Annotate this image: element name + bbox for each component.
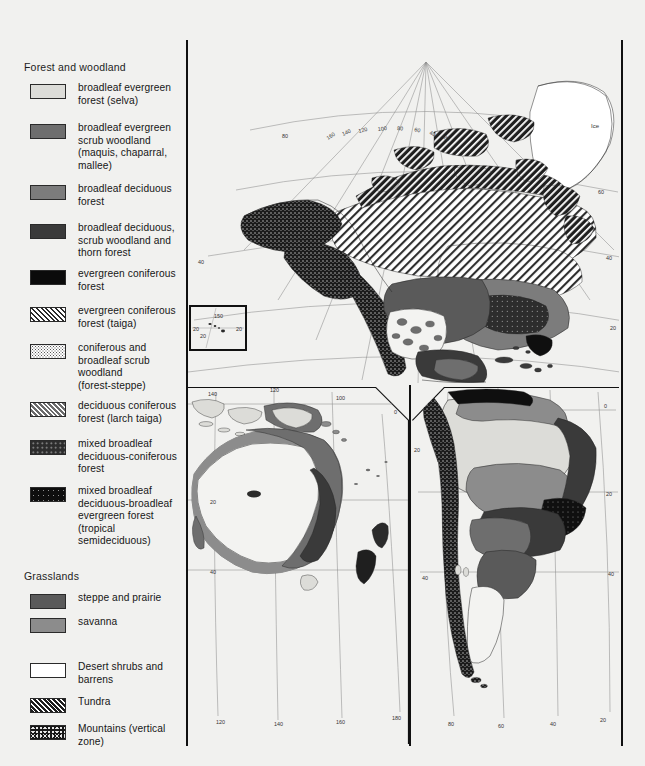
legend-swatch-broadleaf-evergreen-scrub-woodland	[30, 124, 66, 139]
graticule-label-lon: 60	[498, 723, 504, 729]
legend-group-title-forest: Forest and woodland	[24, 61, 126, 73]
graticule-label-lat: 20	[200, 333, 206, 339]
panel-south-america: 0 20 40 40 80 60 40 20	[412, 387, 620, 729]
graticule-label-lon: 160	[325, 131, 336, 141]
graticule-label-lon: 100	[377, 125, 387, 132]
graticule-label-lat: 20	[610, 325, 616, 331]
graticule-label-lon: 140	[274, 721, 283, 727]
graticule-label-lon: 20	[414, 447, 420, 453]
graticule-label-lon: 60	[414, 126, 421, 133]
graticule-label-lon: 120	[216, 719, 225, 725]
graticule-label-lat: 60	[598, 189, 604, 195]
graticule-label-lon: 140	[208, 391, 217, 397]
graticule-label-lat: 40	[210, 569, 216, 575]
graticule-label-lon: 180	[392, 715, 401, 721]
annotation-ice: Ice	[591, 123, 600, 129]
legend-swatch-mixed-broadleaf-deciduous-evergreen	[30, 487, 66, 502]
legend-group-title-grasslands: Grasslands	[24, 570, 79, 582]
legend-swatch-savanna	[30, 618, 66, 633]
graticule-label-lon: 160	[336, 719, 345, 725]
graticule-label-lon: 100	[336, 395, 345, 401]
panel-australia: 140 120 100 20 40 120 140 160 180	[188, 387, 409, 744]
graticule-label-lat: 20	[210, 499, 216, 505]
graticule-label-lon: 140	[341, 128, 352, 137]
inset-label: 150	[214, 313, 223, 319]
graticule-label-lon: 80	[448, 721, 454, 727]
legend-swatch-coniferous-broadleaf-forest-steppe	[30, 344, 66, 359]
graticule-label-lat: 40	[608, 571, 614, 577]
graticule-label-lon: 120	[270, 387, 279, 393]
inset-hawaii: 150 20 20	[190, 306, 246, 350]
legend-swatch-mixed-broadleaf-deciduous-coniferous	[30, 440, 66, 455]
legend-swatch-mountains-vertical-zone	[30, 725, 66, 740]
graticule-label-lat: 40	[422, 575, 428, 581]
legend-swatch-tundra	[30, 698, 66, 713]
panel-north-america: Ice 160 140 120 100 80 60 40 20 80 40 20…	[188, 62, 634, 384]
map-legend: Forest and woodland broadleaf evergreen …	[0, 0, 186, 766]
legend-swatch-broadleaf-evergreen-forest	[30, 84, 66, 99]
legend-swatch-evergreen-coniferous-forest	[30, 270, 66, 285]
legend-swatch-steppe-and-prairie	[30, 594, 66, 609]
map-canvas: Ice 160 140 120 100 80 60 40 20 80 40 20…	[186, 0, 645, 766]
graticule-label-lat: 40	[198, 259, 204, 265]
graticule-label-lat: 80	[282, 133, 288, 139]
graticule-label-lon: 120	[358, 126, 368, 134]
graticule-label-lat: 0	[604, 403, 607, 409]
inset-label: 20	[193, 326, 199, 332]
graticule-label-lon: 80	[397, 125, 403, 131]
legend-swatch-evergreen-coniferous-taiga	[30, 307, 66, 322]
legend-swatch-broadleaf-deciduous-forest	[30, 185, 66, 200]
map-graphics: Ice 160 140 120 100 80 60 40 20 80 40 20…	[186, 0, 645, 766]
legend-swatch-deciduous-coniferous-larch-taiga	[30, 402, 66, 417]
graticule-label-lon: 40	[550, 721, 556, 727]
graticule-label-lat: 20	[606, 491, 612, 497]
graticule-label-lat: 40	[606, 255, 612, 261]
legend-swatch-desert-shrubs-and-barrens	[30, 663, 66, 678]
inset-label: 20	[236, 326, 242, 332]
graticule-label-lon: 0	[394, 409, 397, 415]
legend-swatch-broadleaf-deciduous-scrub-thorn	[30, 224, 66, 239]
graticule-label-lon: 20	[600, 717, 606, 723]
